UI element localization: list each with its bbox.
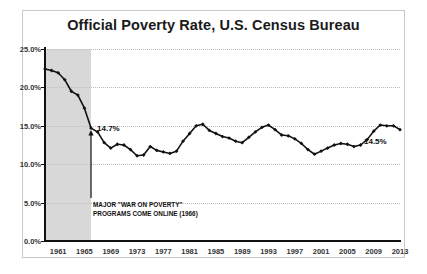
y-axis-tick-label: 5.0% xyxy=(24,198,41,207)
x-axis-tick-label: 1993 xyxy=(260,247,277,256)
x-axis-tick-label: 2005 xyxy=(339,247,356,256)
x-axis-tick-label: 1965 xyxy=(76,247,93,256)
data-point-marker xyxy=(161,150,165,154)
annotation-line-1: MAJOR "WAR ON POVERTY" xyxy=(93,200,198,209)
x-axis-tick-label: 2001 xyxy=(313,247,330,256)
annotation-war-on-poverty: MAJOR "WAR ON POVERTY" PROGRAMS COME ONL… xyxy=(93,200,198,219)
data-point-marker xyxy=(352,145,356,149)
data-label: 14.5% xyxy=(364,137,387,146)
series-line xyxy=(45,69,400,156)
x-axis-tick-label: 2009 xyxy=(365,247,382,256)
y-axis-tick-label: 15.0% xyxy=(20,121,41,130)
x-axis-tick-label: 2013 xyxy=(392,247,409,256)
chart-frame: Official Poverty Rate, U.S. Census Burea… xyxy=(22,10,405,258)
x-axis-tick-label: 1985 xyxy=(208,247,225,256)
chart-title: Official Poverty Rate, U.S. Census Burea… xyxy=(23,17,404,33)
x-axis-tick-label: 1997 xyxy=(286,247,303,256)
data-label: 14.7% xyxy=(97,124,120,133)
plot-area: 0.0%5.0%10.0%15.0%20.0%25.0% 19611965196… xyxy=(45,49,400,241)
data-point-marker xyxy=(168,152,172,156)
x-axis-tick-label: 1981 xyxy=(181,247,198,256)
x-axis-tick-label: 1961 xyxy=(50,247,67,256)
data-point-marker xyxy=(50,69,54,73)
y-axis-tick-label: 25.0% xyxy=(20,45,41,54)
y-axis-tick-label: 20.0% xyxy=(20,83,41,92)
x-axis-tick-label: 1969 xyxy=(102,247,119,256)
annotation-arrow-head xyxy=(88,130,93,136)
y-axis-tick-label: 0.0% xyxy=(24,237,41,246)
data-point-marker xyxy=(339,142,343,146)
data-point-marker xyxy=(385,124,389,128)
y-axis-tick-label: 10.0% xyxy=(20,160,41,169)
x-axis-tick-label: 1977 xyxy=(155,247,172,256)
annotation-line-2: PROGRAMS COME ONLINE (1966) xyxy=(93,209,198,218)
x-axis-tick-label: 1989 xyxy=(234,247,251,256)
x-axis-tick-label: 1973 xyxy=(129,247,146,256)
data-point-marker xyxy=(346,142,350,146)
